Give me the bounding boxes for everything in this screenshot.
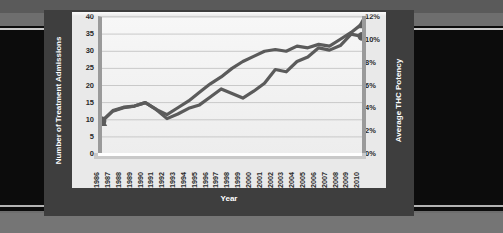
x-axis-tick: 1989	[125, 172, 134, 188]
x-axis-tick: 2000	[244, 172, 253, 188]
x-axis-tick: 2004	[287, 172, 296, 188]
x-axis-tick: 1994	[179, 172, 188, 188]
x-axis-tick: 1992	[157, 172, 166, 188]
series-line	[102, 34, 362, 121]
y-axis-right-tick: 6%	[365, 80, 376, 89]
y-axis-right-tick: 2%	[365, 126, 376, 135]
plot-area	[98, 16, 362, 154]
x-axis-tick: 1996	[201, 172, 210, 188]
y-axis-left-tick: 15	[86, 97, 94, 106]
x-axis-tick: 1993	[168, 172, 177, 188]
x-axis-title: Year	[72, 190, 386, 206]
x-axis-ticks: 1986198719881989199019911992199319941995…	[98, 159, 362, 188]
y-axis-left-title: Number of Treatment Admissions	[46, 12, 72, 188]
y-axis-left-tick: 35	[86, 29, 94, 38]
y-axis-left-tick: 30	[86, 46, 94, 55]
x-axis-tick: 2006	[309, 172, 318, 188]
y-axis-right-tick: 4%	[365, 103, 376, 112]
backdrop-bottom-band	[0, 213, 503, 233]
x-axis-tick: 1995	[190, 172, 199, 188]
y-axis-right-tick: 0%	[365, 149, 376, 158]
y-axis-left-tick: 5	[90, 131, 94, 140]
series-line	[102, 24, 362, 122]
plot-right-wall	[362, 16, 366, 153]
x-axis-title-label: Year	[221, 194, 238, 203]
x-axis-tick: 1986	[92, 172, 101, 188]
plot-plate: 4035302520151050 12%10%8%6%4%2%0% 198619…	[72, 12, 386, 188]
x-axis-tick: 2010	[352, 172, 361, 188]
y-axis-left-title-label: Number of Treatment Admissions	[55, 36, 64, 164]
x-axis-tick: 1998	[222, 172, 231, 188]
y-axis-left-ticks: 4035302520151050	[72, 12, 94, 156]
x-axis-tick: 1999	[233, 172, 242, 188]
x-axis-tick: 2007	[320, 172, 329, 188]
x-axis-tick: 1987	[103, 172, 112, 188]
y-axis-right-tick: 10%	[365, 34, 380, 43]
y-axis-right-tick: 8%	[365, 57, 376, 66]
x-axis-tick: 2009	[341, 172, 350, 188]
x-axis-tick: 2001	[255, 172, 264, 188]
x-axis-tick: 1988	[114, 172, 123, 188]
y-axis-right-ticks: 12%10%8%6%4%2%0%	[363, 12, 386, 156]
y-axis-left-tick: 10	[86, 114, 94, 123]
x-axis-tick: 2003	[276, 172, 285, 188]
x-axis-tick: 1997	[211, 172, 220, 188]
x-axis-tick: 1990	[136, 172, 145, 188]
x-axis-tick: 2005	[298, 172, 307, 188]
y-axis-left-tick: 40	[86, 12, 94, 21]
y-axis-left-tick: 20	[86, 80, 94, 89]
y-axis-right-title-label: Average THC Potency	[395, 58, 404, 141]
x-axis-tick: 2008	[331, 172, 340, 188]
x-axis-tick: 2002	[266, 172, 275, 188]
y-axis-right-tick: 12%	[365, 12, 380, 21]
plot-floor	[98, 153, 362, 156]
y-axis-right-title: Average THC Potency	[386, 12, 412, 188]
x-axis-tick: 1991	[146, 172, 155, 188]
y-axis-left-tick: 25	[86, 63, 94, 72]
series-lines	[102, 17, 362, 154]
